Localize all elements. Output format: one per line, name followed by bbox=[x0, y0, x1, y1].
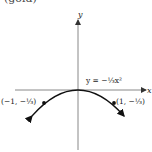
parabola-chart: x y y = −⅓x² (−1, −⅓) (1, −⅓) bbox=[0, 0, 152, 152]
equation-label: y = −⅓x² bbox=[85, 76, 122, 85]
point-left bbox=[42, 101, 46, 105]
y-axis-label: y bbox=[77, 10, 83, 19]
point-left-label: (−1, −⅓) bbox=[1, 97, 36, 106]
point-right-label: (1, −⅓) bbox=[116, 97, 145, 106]
x-axis-label: x bbox=[147, 86, 152, 95]
